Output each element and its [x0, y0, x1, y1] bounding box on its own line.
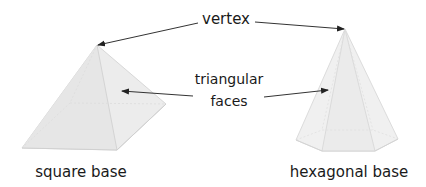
vertex-label: vertex — [202, 10, 250, 28]
square-pyramid — [22, 45, 166, 150]
hexagonal-pyramid — [296, 29, 398, 151]
vertex-arrow-left — [98, 23, 198, 45]
triangular-faces-line1: triangular — [195, 68, 264, 90]
pyramids-diagram: vertex triangular faces square base hexa… — [0, 0, 426, 187]
triangular-faces-line2: faces — [195, 90, 264, 112]
triangular-faces-label: triangular faces — [195, 68, 264, 112]
hexagonal-base-label: hexagonal base — [290, 163, 409, 181]
vertex-arrow-right — [255, 22, 344, 29]
square-base-label: square base — [35, 163, 127, 181]
